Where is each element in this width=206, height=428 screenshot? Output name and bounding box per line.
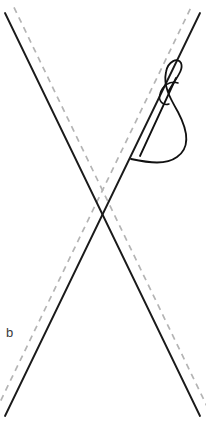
solid-line-group bbox=[5, 13, 200, 416]
needle-shaft bbox=[140, 78, 176, 156]
figure-canvas bbox=[0, 0, 206, 428]
thread-curve bbox=[131, 60, 186, 162]
panel-label-b: b bbox=[6, 326, 13, 339]
dashed-descending-line bbox=[14, 7, 206, 410]
dashed-ascending-line bbox=[0, 7, 191, 410]
figure-panel: b bbox=[0, 0, 206, 428]
needle-and-thread-icon bbox=[131, 60, 186, 162]
